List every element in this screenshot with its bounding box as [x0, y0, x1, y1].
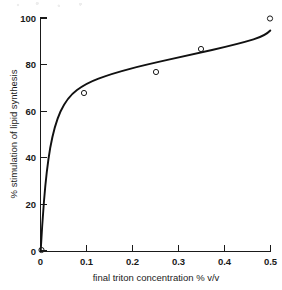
- scatter-plot: 100 80 60 40 20 0 0 0.1 0.2 0.3 0.4 0.5 …: [0, 0, 282, 290]
- y-axis-label: % stimulation of lipid synthesis: [8, 69, 19, 198]
- y-tick-label: 20: [25, 199, 36, 210]
- x-tick-label: 0.1: [80, 256, 94, 267]
- y-tick-label: 60: [25, 106, 36, 117]
- y-tick-label: 100: [20, 13, 36, 24]
- data-point: [267, 16, 272, 21]
- x-tick-labels: 0 0.1 0.2 0.3 0.4 0.5: [38, 256, 278, 267]
- data-markers: [39, 16, 273, 253]
- y-tick-label: 40: [25, 152, 36, 163]
- y-tick-label: 0: [31, 246, 36, 257]
- figure-container: 100 80 60 40 20 0 0 0.1 0.2 0.3 0.4 0.5 …: [0, 0, 282, 290]
- x-tick-marks: [41, 245, 271, 252]
- data-point: [153, 69, 158, 74]
- data-point: [198, 46, 203, 51]
- x-tick-label: 0.3: [172, 256, 185, 267]
- data-point: [81, 90, 86, 95]
- x-tick-label: 0.4: [218, 256, 232, 267]
- x-tick-label: 0: [38, 256, 43, 267]
- y-tick-labels: 100 80 60 40 20 0: [20, 13, 36, 257]
- fitted-curve: [41, 31, 271, 252]
- x-tick-label: 0.5: [264, 256, 278, 267]
- axis-lines: [41, 17, 271, 252]
- x-tick-label: 0.2: [126, 256, 139, 267]
- x-axis-label: final triton concentration % v/v: [93, 272, 220, 283]
- y-tick-label: 80: [25, 59, 36, 70]
